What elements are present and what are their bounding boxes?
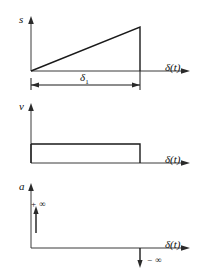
- a-negative-impulse-arrowhead: [137, 260, 142, 268]
- panel-acceleration: [28, 183, 190, 268]
- v-axis-label: v: [19, 101, 24, 112]
- delta1-subscript: 1: [85, 78, 89, 86]
- a-x-axis-label: δ(t): [165, 239, 181, 250]
- positive-infinity-label: + ∞: [31, 200, 46, 209]
- v-y-axis-arrowhead: [28, 103, 34, 111]
- a-axis-label: a: [19, 181, 25, 192]
- s-ramp-curve: [31, 27, 140, 71]
- delta1-label: δ1: [80, 72, 89, 86]
- delta1-left-arrowhead: [31, 83, 39, 88]
- s-x-axis-arrowhead: [181, 68, 190, 74]
- panel-displacement: [28, 16, 190, 90]
- delta1-right-arrowhead: [132, 83, 140, 88]
- s-y-axis-arrowhead: [28, 16, 34, 24]
- a-y-axis-arrowhead: [28, 183, 34, 191]
- v-x-axis-arrowhead: [181, 160, 190, 166]
- a-x-axis-arrowhead: [181, 245, 190, 251]
- kinematics-figure: s δ(t) δ1 v δ(t) a δ(t) + ∞ − ∞: [0, 0, 209, 279]
- s-x-axis-label: δ(t): [165, 62, 181, 73]
- s-axis-label: s: [19, 14, 23, 25]
- v-pulse-curve: [31, 144, 140, 163]
- v-x-axis-label: δ(t): [165, 154, 181, 165]
- negative-infinity-label: − ∞: [147, 256, 162, 265]
